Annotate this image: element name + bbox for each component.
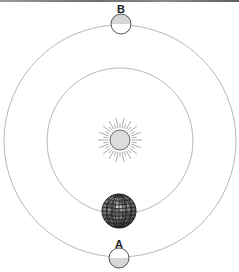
label-a: A <box>115 238 123 250</box>
sun-icon <box>98 118 142 161</box>
moon-position-b <box>111 14 131 34</box>
label-b: B <box>117 3 125 15</box>
orbit-diagram: B A <box>0 0 239 272</box>
earth-globe-icon <box>100 194 138 228</box>
moon-position-a <box>109 248 129 268</box>
sun-body <box>110 130 130 150</box>
